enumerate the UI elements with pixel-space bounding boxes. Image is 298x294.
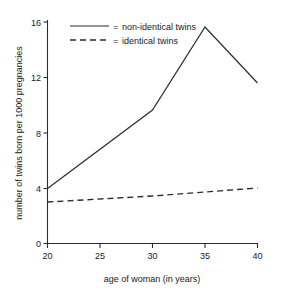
y-tick-label-16: 16 [31, 18, 41, 28]
y-axis-title: number of twins born per 1000 pregnancie… [14, 46, 24, 220]
y-tick-label-4: 4 [36, 184, 41, 194]
x-tick-label-35: 35 [200, 251, 210, 261]
y-axis-tick-labels: 16 12 8 4 0 [31, 18, 41, 250]
x-tick-label-30: 30 [147, 251, 157, 261]
twins-birth-rate-chart: 16 12 8 4 0 20 25 30 35 40 age of woman … [0, 0, 298, 294]
x-tick-label-20: 20 [42, 251, 52, 261]
y-tick-label-0: 0 [36, 239, 41, 249]
x-axis-tick-labels: 20 25 30 35 40 [42, 251, 262, 261]
chart-canvas: 16 12 8 4 0 20 25 30 35 40 age of woman … [0, 0, 298, 294]
x-tick-label-40: 40 [252, 251, 262, 261]
legend-equals-sign-1: = [113, 22, 118, 32]
x-axis-ticks [48, 244, 258, 249]
y-axis-ticks [44, 22, 48, 244]
legend-label-identical-twins: identical twins [122, 36, 179, 46]
x-axis-title: age of woman (in years) [104, 274, 201, 284]
y-tick-label-8: 8 [36, 129, 41, 139]
series-non-identical-twins [48, 27, 258, 189]
y-tick-label-12: 12 [31, 73, 41, 83]
legend-label-non-identical-twins: non-identical twins [122, 22, 197, 32]
x-tick-label-25: 25 [95, 251, 105, 261]
legend-equals-sign-2: = [113, 36, 118, 46]
chart-legend: = non-identical twins = identical twins [70, 22, 197, 46]
series-identical-twins [48, 188, 258, 202]
